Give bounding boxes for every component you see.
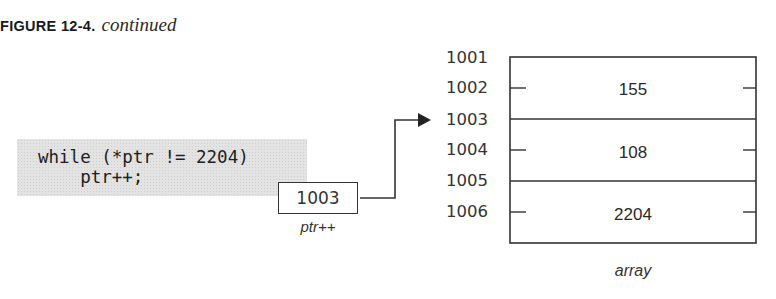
pointer-label: ptr++ <box>278 218 358 235</box>
cell-value-1003: 108 <box>510 143 756 163</box>
address-1005: 1005 <box>446 171 500 191</box>
pointer-value-box: 1003 <box>278 182 358 214</box>
array-label: array <box>510 262 756 280</box>
cell-value-1005: 2204 <box>510 205 756 225</box>
address-1006: 1006 <box>446 202 500 222</box>
arrowhead-icon <box>418 113 431 127</box>
address-1004: 1004 <box>446 140 500 160</box>
address-1003: 1003 <box>446 110 500 130</box>
address-1001: 1001 <box>446 48 500 68</box>
cell-value-1001: 155 <box>510 80 756 100</box>
address-1002: 1002 <box>446 78 500 98</box>
pointer-arrow-line <box>360 120 420 198</box>
